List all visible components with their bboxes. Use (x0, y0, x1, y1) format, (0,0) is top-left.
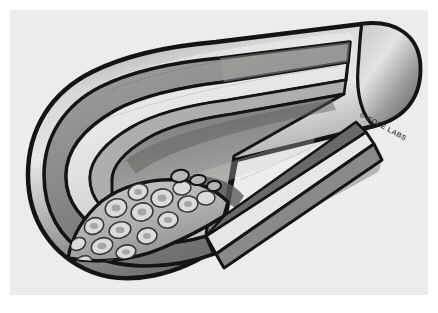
illustration-page: © COLE LABS (0, 0, 438, 313)
figure-frame: © COLE LABS (10, 10, 428, 295)
artery-illustration (10, 10, 428, 295)
vessel-end-cap (358, 23, 421, 126)
